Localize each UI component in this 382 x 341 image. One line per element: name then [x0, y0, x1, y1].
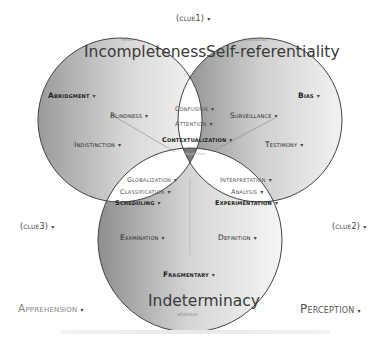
chevron-down-icon[interactable]: ▾ [229, 136, 232, 143]
item-indistinction[interactable]: Indistinction▾ [74, 140, 121, 149]
chevron-down-icon[interactable]: ▾ [207, 15, 210, 22]
item-attention[interactable]: Attention▾ [175, 120, 213, 128]
chevron-down-icon[interactable]: ▾ [211, 105, 214, 112]
subtitle-effort: effort [122, 37, 134, 42]
chevron-down-icon[interactable]: ▾ [269, 176, 272, 183]
clue3-dropdown[interactable]: (clue3)▾ [20, 222, 54, 231]
chevron-down-icon[interactable]: ▾ [209, 120, 212, 127]
item-abridgment[interactable]: Abridgment▾ [48, 91, 96, 100]
item-experimentation[interactable]: Experimentation▾ [215, 199, 278, 207]
chevron-down-icon[interactable]: ▾ [93, 92, 96, 99]
chevron-down-icon[interactable]: ▾ [317, 92, 320, 99]
chevron-down-icon[interactable]: ▾ [212, 271, 215, 278]
item-fragmentary[interactable]: Fragmentary▾ [163, 270, 215, 279]
chevron-down-icon[interactable]: ▾ [357, 307, 360, 314]
clue2-dropdown[interactable]: (clue2)▾ [332, 222, 366, 231]
chevron-down-icon[interactable]: ▾ [300, 141, 303, 148]
chevron-down-icon[interactable]: ▾ [260, 188, 263, 195]
item-examination[interactable]: Examination▾ [120, 233, 165, 242]
title-self-referentiality: Self-referentiality [206, 43, 340, 61]
chevron-down-icon[interactable]: ▾ [275, 112, 278, 119]
caption-faint [60, 330, 330, 334]
item-surveillance[interactable]: Surveillance▾ [230, 111, 278, 120]
chevron-down-icon[interactable]: ▾ [118, 141, 121, 148]
title-incompleteness: Incompleteness [84, 43, 206, 61]
chevron-down-icon[interactable]: ▾ [162, 234, 165, 241]
item-testimony[interactable]: Testimony▾ [265, 140, 304, 149]
item-bias[interactable]: Bias▾ [298, 91, 320, 100]
chevron-down-icon[interactable]: ▾ [81, 306, 84, 313]
perception-dropdown[interactable]: Perception▾ [300, 302, 361, 316]
center-label: illegible text [182, 152, 208, 156]
item-classification[interactable]: Classification▾ [120, 188, 171, 196]
item-interpretation[interactable]: Interpretation▾ [220, 176, 272, 184]
title-indeterminacy: Indeterminacy [148, 292, 260, 310]
subtitle-motivation: motivation [243, 37, 267, 42]
subtitle-attention: attention [177, 312, 198, 317]
chevron-down-icon[interactable]: ▾ [254, 234, 257, 241]
item-blindness[interactable]: Blindness▾ [110, 111, 148, 120]
chevron-down-icon[interactable]: ▾ [174, 176, 177, 183]
item-definition[interactable]: Definition▾ [218, 233, 257, 242]
item-contextualization[interactable]: Contextualization▾ [162, 136, 233, 144]
chevron-down-icon[interactable]: ▾ [158, 199, 161, 206]
chevron-down-icon[interactable]: ▾ [363, 223, 366, 230]
item-analysis[interactable]: Analysis▾ [231, 188, 263, 196]
chevron-down-icon[interactable]: ▾ [51, 223, 54, 230]
apprehension-dropdown[interactable]: Apprehension▾ [18, 302, 84, 314]
item-scheduling[interactable]: Scheduling▾ [115, 199, 161, 207]
chevron-down-icon[interactable]: ▾ [145, 112, 148, 119]
clue1-dropdown[interactable]: (clue1)▾ [176, 14, 210, 23]
item-confusion[interactable]: Confusion▾ [175, 105, 214, 113]
chevron-down-icon[interactable]: ▾ [168, 188, 171, 195]
item-globalization[interactable]: Globalization▾ [127, 176, 177, 184]
chevron-down-icon[interactable]: ▾ [275, 199, 278, 206]
